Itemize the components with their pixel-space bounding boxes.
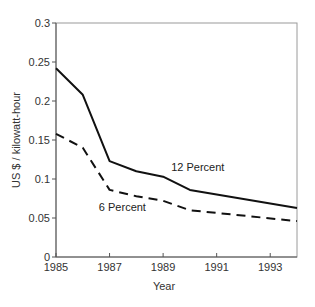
series-line-12-percent: [56, 68, 297, 208]
x-tick-label: 1985: [44, 261, 68, 273]
x-tick-label: 1993: [258, 261, 282, 273]
series-line-6-percent: [56, 134, 297, 221]
y-tick-label: 0.3: [35, 17, 50, 29]
series-lines: [56, 68, 297, 221]
series-labels: 12 Percent6 Percent: [99, 161, 225, 213]
series-annotation: 6 Percent: [99, 201, 146, 213]
x-axis-ticks: 19851987198919911993: [44, 253, 283, 273]
y-tick-label: 0.15: [29, 134, 50, 146]
y-axis-ticks: 00.050.10.150.20.250.3: [29, 17, 56, 263]
y-tick-label: 0.25: [29, 56, 50, 68]
y-tick-label: 0.05: [29, 212, 50, 224]
line-chart: 00.050.10.150.20.250.3 19851987198919911…: [0, 0, 315, 307]
x-tick-label: 1987: [97, 261, 121, 273]
x-axis-title: Year: [153, 280, 176, 292]
x-tick-label: 1991: [204, 261, 228, 273]
series-annotation: 12 Percent: [171, 161, 224, 173]
plot-frame: [56, 23, 297, 257]
y-tick-label: 0.1: [35, 173, 50, 185]
y-tick-label: 0.2: [35, 95, 50, 107]
y-axis-title: US $ / kilowatt-hour: [10, 92, 22, 188]
x-tick-label: 1989: [151, 261, 175, 273]
